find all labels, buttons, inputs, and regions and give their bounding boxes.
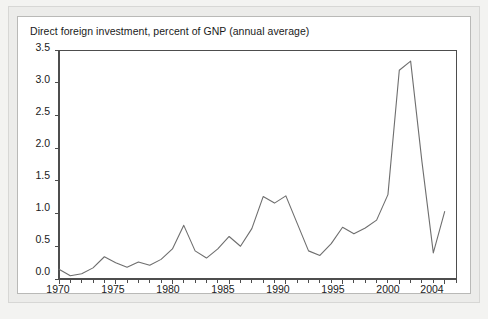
axis-lines <box>59 50 456 279</box>
data-series-line <box>59 61 445 276</box>
axis-ticks <box>55 50 456 284</box>
plot-area: 3.5 3.0 2.5 2.0 1.5 1.0 0.5 0.0 1970 197… <box>18 17 472 295</box>
chart-panel: Direct foreign investment, percent of GN… <box>17 16 471 294</box>
figure-root: Direct foreign investment, percent of GN… <box>0 0 488 319</box>
line-chart-svg <box>18 17 472 295</box>
